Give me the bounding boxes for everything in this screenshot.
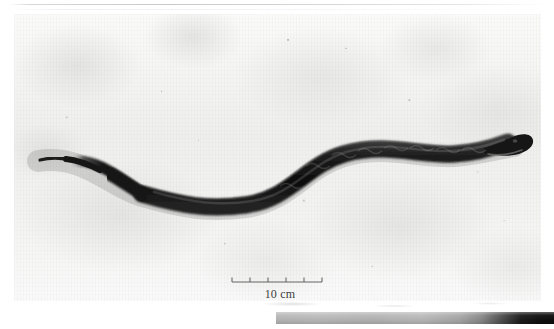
figure-root: 10 cm: [0, 0, 554, 329]
ruler-icon: [14, 14, 541, 301]
bottom-gray-bar: [276, 312, 554, 324]
top-scan-rule-secondary: [10, 9, 510, 10]
scale-bar-label: 10 cm: [232, 287, 328, 301]
top-scan-rule: [8, 4, 546, 5]
bottom-gray-bar-shading: [276, 312, 554, 324]
specimen-photograph: [14, 14, 541, 301]
page-smudge: [250, 300, 550, 310]
